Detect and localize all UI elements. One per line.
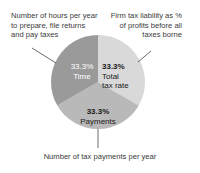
- slice-pct-payments: 33.3%: [78, 107, 118, 117]
- pie-chart: Number of hours per year to prepare, fil…: [0, 0, 200, 173]
- slice-label-time: 33.3% Time: [66, 62, 98, 81]
- slice-label-payments: 33.3% Payments: [78, 107, 118, 126]
- callout-time-line2: to prepare, file returns: [11, 21, 98, 31]
- callout-total-line2: of profits before all: [111, 21, 182, 31]
- slice-name-total-line1: Total: [102, 72, 129, 82]
- leader-line-left: [32, 48, 56, 63]
- callout-time: Number of hours per year to prepare, fil…: [11, 11, 98, 40]
- slice-name-payments: Payments: [80, 117, 116, 126]
- callout-time-line1: Number of hours per year: [11, 11, 98, 21]
- slice-pct-total: 33.3%: [102, 62, 129, 72]
- slice-label-total-tax-rate: 33.3% Total tax rate: [102, 62, 129, 91]
- slice-name-time: Time: [73, 72, 90, 81]
- callout-time-line3: and pay taxes: [11, 30, 98, 40]
- callout-total-line1: Firm tax liability as %: [111, 11, 182, 21]
- callout-total-line3: taxes borne: [111, 30, 182, 40]
- callout-total-tax-rate: Firm tax liability as % of profits befor…: [111, 11, 182, 40]
- slice-pct-time: 33.3%: [66, 62, 98, 72]
- callout-payments: Number of tax payments per year: [0, 152, 200, 162]
- slice-name-total-line2: tax rate: [102, 81, 129, 91]
- leader-line-right: [138, 51, 151, 62]
